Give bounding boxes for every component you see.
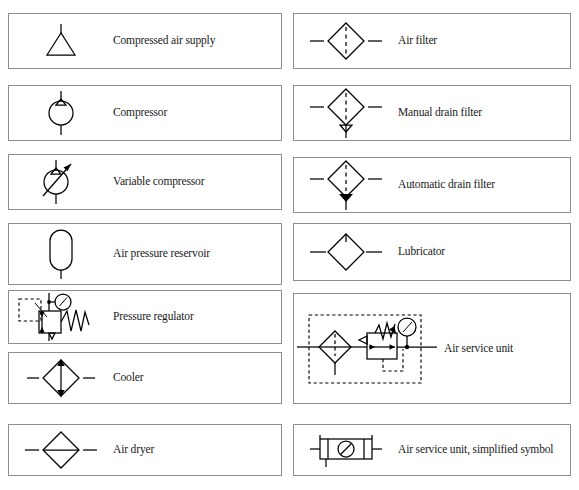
symbol-label: Air pressure reservoir bbox=[113, 247, 281, 261]
symbol-row-manual-drain-filter: Manual drain filter bbox=[293, 85, 571, 141]
symbol-row-air-service-unit: Air service unit bbox=[293, 293, 571, 404]
symbol-row-air-filter: Air filter bbox=[293, 13, 571, 69]
symbol-label: Lubricator bbox=[398, 245, 570, 259]
cooler-icon bbox=[9, 355, 113, 401]
symbol-row-compressed-air-supply: Compressed air supply bbox=[8, 13, 282, 69]
air-service-unit-icon bbox=[294, 303, 444, 395]
symbol-row-pressure-regulator: Pressure regulator bbox=[8, 290, 282, 344]
symbol-label: Variable compressor bbox=[113, 175, 281, 189]
manual-drain-filter-icon bbox=[294, 86, 398, 140]
symbol-row-automatic-drain-filter: Automatic drain filter bbox=[293, 157, 571, 213]
lubricator-icon bbox=[294, 229, 398, 275]
pressure-regulator-icon bbox=[9, 291, 113, 343]
symbol-label: Automatic drain filter bbox=[398, 178, 570, 192]
air-dryer-icon bbox=[9, 427, 113, 473]
symbol-label: Compressed air supply bbox=[113, 34, 281, 48]
symbol-label: Air dryer bbox=[113, 443, 281, 457]
variable-compressor-icon bbox=[9, 158, 113, 206]
symbol-row-cooler: Cooler bbox=[8, 352, 282, 404]
air-service-unit-simplified-icon bbox=[294, 429, 398, 471]
symbol-row-lubricator: Lubricator bbox=[293, 223, 571, 281]
compressed-air-supply-icon bbox=[9, 20, 113, 62]
symbol-table: Compressed air supply Compressor bbox=[0, 0, 579, 490]
symbol-label: Air service unit, simplified symbol bbox=[398, 443, 570, 457]
air-pressure-reservoir-icon bbox=[9, 226, 113, 282]
symbol-row-compressor: Compressor bbox=[8, 85, 282, 141]
symbol-row-air-pressure-reservoir: Air pressure reservoir bbox=[8, 223, 282, 285]
symbol-row-air-service-unit-simplified: Air service unit, simplified symbol bbox=[293, 424, 571, 476]
symbol-label: Air filter bbox=[398, 34, 570, 48]
symbol-label: Cooler bbox=[113, 371, 281, 385]
symbol-label: Compressor bbox=[113, 106, 281, 120]
symbol-label: Pressure regulator bbox=[113, 310, 281, 324]
symbol-row-air-dryer: Air dryer bbox=[8, 424, 282, 476]
symbol-label: Air service unit bbox=[444, 342, 570, 356]
symbol-row-variable-compressor: Variable compressor bbox=[8, 154, 282, 210]
compressor-icon bbox=[9, 89, 113, 137]
air-filter-icon bbox=[294, 18, 398, 64]
symbol-label: Manual drain filter bbox=[398, 106, 570, 120]
automatic-drain-filter-icon bbox=[294, 158, 398, 212]
